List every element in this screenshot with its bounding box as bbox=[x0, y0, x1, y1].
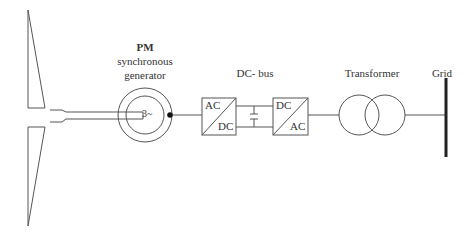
generator-inner-text: 3~ bbox=[142, 108, 162, 119]
rectifier-top-text: AC bbox=[205, 99, 220, 111]
connection-dot bbox=[167, 112, 173, 118]
dc-bus-lines bbox=[236, 106, 273, 127]
inverter-top-text: DC bbox=[276, 99, 291, 111]
grid-busbar bbox=[445, 78, 448, 157]
generator-label-line2: synchronous bbox=[105, 55, 185, 67]
transformer-label: Transformer bbox=[337, 67, 407, 79]
rectifier-bottom-text: DC bbox=[218, 120, 233, 132]
inverter-bottom-text: AC bbox=[290, 120, 305, 132]
upper-blade bbox=[28, 10, 45, 108]
lower-blade bbox=[28, 127, 45, 226]
turbine-shaft bbox=[50, 110, 143, 122]
grid-label: Grid bbox=[422, 67, 462, 79]
diagram-canvas bbox=[0, 0, 469, 237]
turbine-blades bbox=[28, 10, 45, 226]
dc-bus-label: DC- bus bbox=[225, 67, 285, 79]
transformer-symbol bbox=[339, 95, 405, 135]
generator-label-bold: PM bbox=[115, 41, 175, 53]
generator-label-line3: generator bbox=[105, 69, 185, 81]
